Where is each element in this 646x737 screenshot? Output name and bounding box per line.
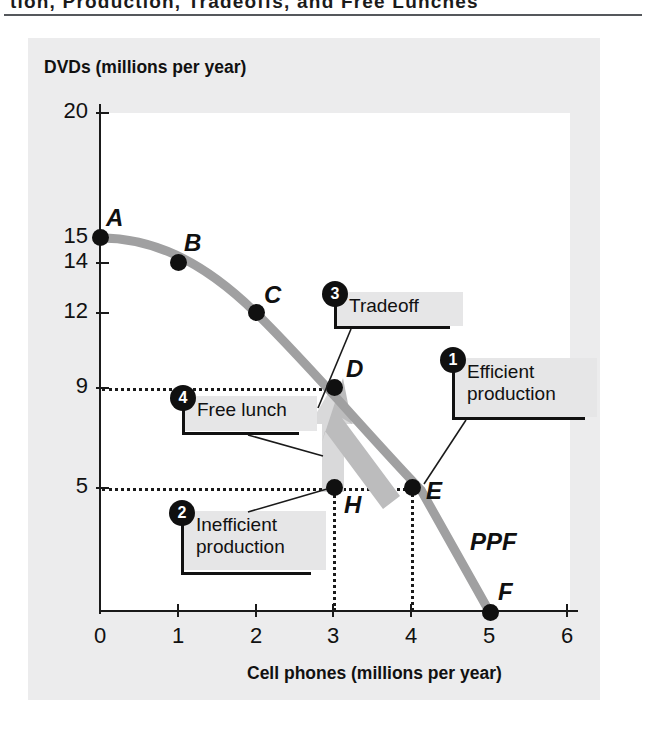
- guide-line-dvd-5: [102, 488, 412, 491]
- data-point-c[interactable]: [248, 304, 265, 321]
- x-axis-tick: [177, 604, 179, 617]
- y-axis-tick-label: 14: [42, 248, 88, 274]
- running-header: tion, Production, Tradeoffs, and Free Lu…: [0, 0, 646, 14]
- x-axis-tick: [566, 604, 568, 617]
- callout-tradeoff-badge: 3: [322, 281, 348, 307]
- data-point-label-f: F: [498, 578, 513, 606]
- header-divider-rule: [4, 14, 642, 16]
- y-axis-tick: [96, 312, 109, 314]
- callout-free-lunch-box: Free lunch: [185, 396, 317, 431]
- callout-efficient-box: Efficient production: [455, 358, 597, 417]
- figure-root: tion, Production, Tradeoffs, and Free Lu…: [0, 0, 646, 737]
- callout-efficient-rule-h: [452, 417, 585, 420]
- data-point-label-c: C: [264, 281, 281, 309]
- x-axis-title: Cell phones (millions per year): [247, 663, 502, 684]
- callout-inefficient-rule-h: [181, 572, 311, 575]
- callout-inefficient-badge: 2: [169, 500, 195, 526]
- x-axis-tick-label: 1: [158, 623, 198, 649]
- x-axis-tick-label: 4: [391, 623, 431, 649]
- data-point-label-b: B: [184, 229, 201, 257]
- x-axis-tick-label: 3: [313, 623, 353, 649]
- data-point-label-d: D: [346, 355, 363, 383]
- data-point-b[interactable]: [170, 254, 187, 271]
- data-point-a[interactable]: [92, 229, 109, 246]
- data-point-label-a: A: [106, 204, 123, 232]
- y-axis-tick: [96, 262, 109, 264]
- y-axis-tick-label: 9: [42, 373, 88, 399]
- callout-efficient-badge: 1: [440, 347, 466, 373]
- callout-free-lunch-rule-h: [182, 432, 299, 435]
- x-axis-tick-label: 6: [547, 623, 587, 649]
- running-header-text: tion, Production, Tradeoffs, and Free Lu…: [10, 0, 479, 13]
- y-axis-tick-label: 15: [42, 223, 88, 249]
- ppf-curve-label: PPF: [470, 528, 517, 556]
- data-point-label-e: E: [426, 477, 442, 505]
- x-axis-tick-label: 5: [469, 623, 509, 649]
- callout-free-lunch-badge: 4: [170, 385, 196, 411]
- x-axis-tick-label: 0: [80, 623, 120, 649]
- y-axis-title: DVDs (millions per year): [44, 57, 246, 78]
- data-point-f[interactable]: [482, 604, 499, 621]
- y-axis-tick-label: 12: [42, 298, 88, 324]
- data-point-label-h: H: [344, 491, 361, 519]
- guide-line-phones-3: [333, 388, 336, 611]
- x-axis-tick: [255, 604, 257, 617]
- y-axis-tick: [96, 112, 109, 114]
- data-point-h[interactable]: [326, 479, 343, 496]
- callout-inefficient-box: Inefficient production: [184, 511, 326, 570]
- y-axis-tick-label: 5: [42, 473, 88, 499]
- y-axis-line: [99, 104, 101, 614]
- callout-tradeoff-box: Tradeoff: [337, 292, 463, 326]
- guide-line-dvd-9: [102, 388, 334, 391]
- y-axis-tick-label: 20: [42, 98, 88, 124]
- data-point-e[interactable]: [404, 479, 421, 496]
- guide-line-phones-4: [411, 488, 414, 611]
- callout-tradeoff-rule-h: [334, 326, 450, 329]
- x-axis-tick-label: 2: [236, 623, 276, 649]
- data-point-d[interactable]: [326, 379, 343, 396]
- x-axis-line: [100, 610, 578, 612]
